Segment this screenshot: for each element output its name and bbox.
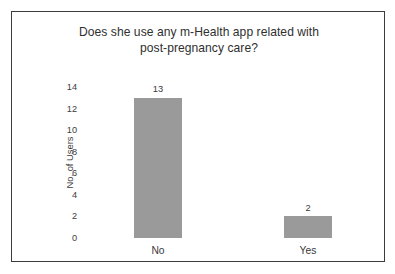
y-tick-label-12: 12 xyxy=(53,104,77,114)
chart-border-frame: Does she use any m-Health app related wi… xyxy=(11,11,385,262)
chart-title-line-2: post-pregnancy care? xyxy=(140,41,258,55)
chart-figure: Does she use any m-Health app related wi… xyxy=(0,0,395,274)
x-tick-label-yes: Yes xyxy=(300,245,317,256)
y-tick-label-2: 2 xyxy=(53,211,77,221)
plot-area: No. of Users 0 2 4 6 8 10 12 14 13 2 No … xyxy=(80,84,380,241)
y-tick-label-6: 6 xyxy=(53,168,77,178)
bar-value-no: 13 xyxy=(153,84,163,94)
y-tick-label-4: 4 xyxy=(53,190,77,200)
x-tick-label-no: No xyxy=(151,245,164,256)
y-tick-label-10: 10 xyxy=(53,125,77,135)
y-tick-label-14: 14 xyxy=(53,82,77,92)
chart-title-line-1: Does she use any m-Health app related wi… xyxy=(79,25,319,39)
y-tick-label-8: 8 xyxy=(53,147,77,157)
bar-value-yes: 2 xyxy=(305,203,310,213)
bar-no[interactable] xyxy=(134,98,182,238)
bar-yes[interactable] xyxy=(284,216,332,238)
y-tick-label-0: 0 xyxy=(53,233,77,243)
chart-title: Does she use any m-Health app related wi… xyxy=(36,24,362,56)
